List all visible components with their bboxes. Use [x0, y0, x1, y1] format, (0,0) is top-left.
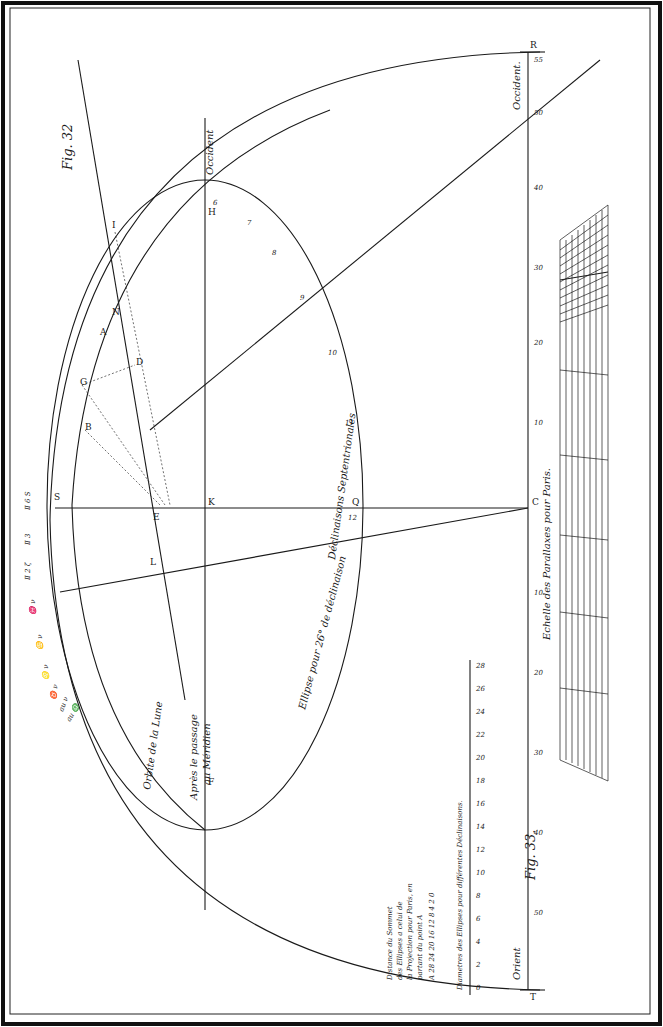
- distance-line-3: la Projection pour Paris, en: [406, 883, 414, 980]
- svg-text:8: 8: [476, 892, 481, 900]
- svg-text:30: 30: [534, 264, 543, 272]
- orbite-label: Orbite de la Lune: [141, 701, 164, 791]
- svg-text:au ν: au ν: [57, 695, 70, 713]
- distance-line-1: Distance du Sommet: [386, 906, 394, 981]
- distance-line-4: partant du point A: [416, 915, 424, 980]
- svg-text:50: 50: [534, 909, 543, 917]
- svg-text:♉ ν: ♉ ν: [48, 683, 60, 701]
- svg-text:6: 6: [213, 199, 218, 207]
- svg-text:9: 9: [300, 294, 305, 302]
- ellipse-inner-curve: [72, 110, 330, 830]
- point-k: K: [208, 497, 215, 507]
- svg-text:28: 28: [475, 662, 485, 670]
- c-tilted-line: [60, 508, 528, 592]
- outer-arc: [50, 52, 540, 990]
- dashed-g-d: [82, 365, 135, 385]
- svg-text:50: 50: [534, 109, 543, 117]
- point-a: A: [99, 327, 107, 337]
- svg-text:♓ ν: ♓ ν: [28, 599, 37, 615]
- svg-text:40: 40: [533, 184, 543, 192]
- point-b: B: [85, 422, 92, 432]
- svg-text:18: 18: [476, 777, 485, 785]
- meridien-label: au Méridien: [201, 723, 212, 785]
- fig33-title: Fig. 33.: [523, 830, 538, 881]
- point-c: C: [532, 497, 539, 507]
- occident-inner-label: Occident: [204, 129, 215, 175]
- svg-text:♋ ν: ♋ ν: [35, 634, 44, 650]
- svg-text:♌ ν: ♌ ν: [41, 664, 50, 680]
- svg-text:8: 8: [272, 249, 277, 257]
- svg-text:11: 11: [345, 419, 354, 427]
- svg-text:10: 10: [534, 419, 543, 427]
- point-q: Q: [352, 497, 359, 507]
- svg-text:10: 10: [476, 869, 485, 877]
- svg-text:2: 2: [475, 961, 481, 969]
- svg-text:20: 20: [475, 754, 485, 762]
- point-t: T: [530, 992, 536, 1002]
- ellipse26-label: Ellipse pour 26° de déclinaison: [296, 555, 348, 712]
- svg-text:Ⅱ 3: Ⅱ 3: [24, 533, 32, 546]
- svg-text:20: 20: [533, 669, 543, 677]
- apres-label: Après le passage: [188, 714, 199, 801]
- svg-text:10: 10: [328, 349, 337, 357]
- diameter-scale-labels: 0 2 4 6 8 10 12 14 16 18 20 22 24 26 28: [475, 662, 485, 992]
- tangent-upper: [150, 60, 600, 430]
- svg-text:26: 26: [475, 685, 485, 693]
- point-s: S: [54, 492, 60, 502]
- svg-text:Ⅱ 2 ζ: Ⅱ 2 ζ: [24, 561, 32, 581]
- dashed-b-e: [85, 430, 160, 505]
- point-l: L: [150, 557, 156, 567]
- svg-text:4: 4: [475, 938, 480, 946]
- point-g: G: [80, 377, 87, 387]
- svg-text:20: 20: [533, 339, 543, 347]
- svg-text:30: 30: [534, 749, 543, 757]
- point-r: R: [530, 40, 537, 50]
- svg-text:22: 22: [475, 731, 485, 739]
- echelle-label: Echelle des Parallaxes pour Paris.: [541, 468, 552, 641]
- diametres-label: Diametres des Ellipses pour différentes …: [456, 800, 464, 991]
- svg-text:16: 16: [476, 800, 485, 808]
- point-f: F: [208, 777, 214, 787]
- dashed-i-e: [115, 232, 170, 505]
- svg-text:7: 7: [247, 219, 252, 227]
- point-n: N: [112, 307, 120, 317]
- distance-line-2: des Ellipses a celui de: [396, 901, 404, 980]
- point-d: D: [136, 357, 143, 367]
- svg-text:0: 0: [476, 984, 481, 992]
- fig33-grid: [560, 205, 608, 781]
- svg-text:40: 40: [533, 829, 543, 837]
- point-h: H: [208, 207, 216, 217]
- distance-line-5: A 28 24 20 16 12 8 4 2 0: [428, 892, 436, 981]
- dashed-g-e: [82, 385, 165, 505]
- orient-label: Orient: [511, 946, 522, 980]
- moon-orbit: [78, 60, 185, 700]
- svg-text:10: 10: [534, 589, 543, 597]
- svg-text:55: 55: [534, 56, 543, 64]
- svg-text:12: 12: [348, 514, 357, 522]
- svg-text:24: 24: [475, 708, 485, 716]
- occident-label: Occident.: [511, 61, 522, 110]
- svg-text:6: 6: [476, 915, 481, 923]
- inner-frame: [10, 8, 650, 1014]
- fig32-title: Fig. 32: [60, 124, 75, 171]
- svg-text:12: 12: [476, 846, 485, 854]
- svg-text:Ⅱ 6 S: Ⅱ 6 S: [24, 491, 32, 511]
- engraving-plate: Fig. 32 Fig. 33. Occident. Occident Orie…: [0, 0, 663, 1027]
- svg-text:14: 14: [476, 823, 485, 831]
- point-e: E: [153, 512, 160, 522]
- point-i: I: [112, 220, 116, 230]
